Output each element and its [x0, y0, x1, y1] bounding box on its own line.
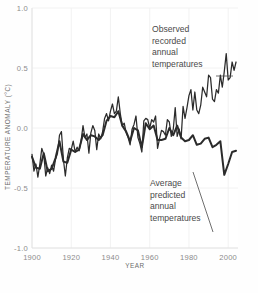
x-tick-1920: 1920 [62, 253, 80, 262]
y-tick--1.0: -1.0 [14, 244, 28, 253]
x-axis-title: YEAR [125, 262, 145, 269]
x-tick-1960: 1960 [141, 253, 159, 262]
x-axis-tick-labels: 190019201940196019802000 [23, 253, 237, 262]
observed-annotation-line-2: annual [152, 47, 178, 57]
observed-annotation-line-0: Observed [152, 24, 189, 34]
x-tick-2000: 2000 [219, 253, 237, 262]
y-tick-0.5: 0.5 [17, 64, 28, 73]
predicted-annotation-line-0: Average [150, 178, 182, 188]
y-axis-title: TEMPERATURE ANOMALY (°C) [4, 84, 12, 190]
x-tick-1940: 1940 [102, 253, 120, 262]
predicted-annotation-line-2: annual [150, 201, 176, 211]
y-tick--0.5: -0.5 [14, 184, 28, 193]
observed-annotation-line-3: temperatures [152, 59, 203, 69]
y-axis-tick-labels: 1.00.50.0-0.5-1.0 [14, 4, 28, 253]
temperature-anomaly-chart: 1.00.50.0-0.5-1.0 1900192019401960198020… [0, 0, 258, 293]
climate-anomaly-figure: 1.00.50.0-0.5-1.0 1900192019401960198020… [0, 0, 258, 293]
x-tick-1900: 1900 [23, 253, 41, 262]
predicted-annotation-line-3: temperatures [150, 213, 201, 223]
x-tick-1980: 1980 [180, 253, 198, 262]
y-tick-0.0: 0.0 [17, 124, 28, 133]
y-tick-1.0: 1.0 [17, 4, 28, 13]
observed-annotation-line-1: recorded [152, 36, 186, 46]
predicted-annotation-line-1: predicted [150, 190, 186, 200]
